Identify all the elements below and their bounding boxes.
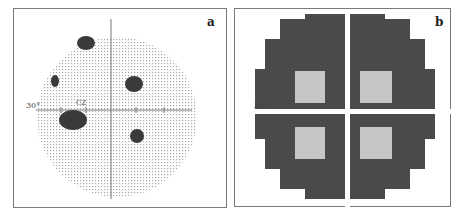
panel-label-b: b <box>435 15 443 29</box>
axis-label-a: 30° <box>26 101 40 110</box>
visual-field-plot-a: CZ <box>14 9 228 209</box>
svg-text:CZ: CZ <box>76 99 86 107</box>
axis-label-b: 30° <box>254 101 268 110</box>
panel-a: CZ 30° a <box>13 8 227 208</box>
panel-b: 30° b <box>234 8 451 207</box>
panel-label-a: a <box>207 15 215 29</box>
